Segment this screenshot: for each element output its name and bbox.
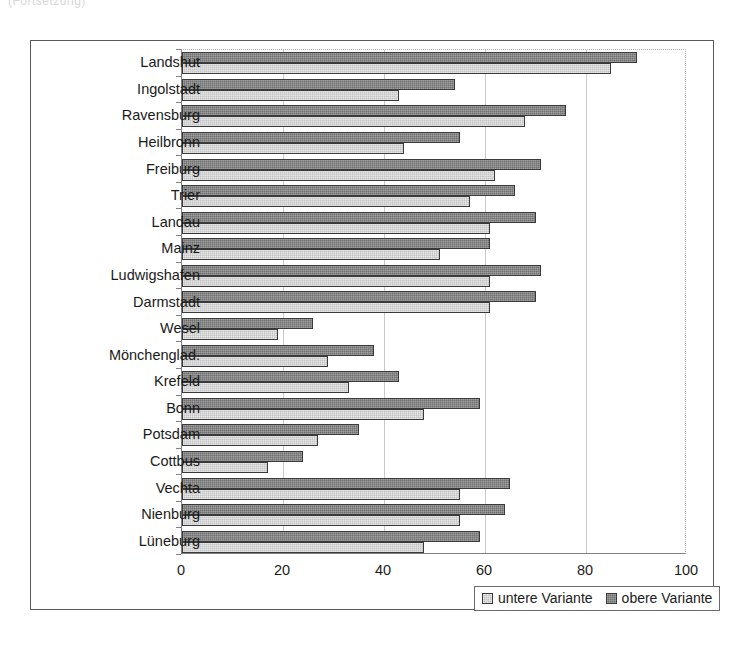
legend-entry-untere: untere Variante bbox=[482, 590, 593, 606]
bar-row bbox=[182, 263, 685, 290]
x-tick-label-40: 40 bbox=[375, 562, 391, 578]
bar-row bbox=[182, 422, 685, 449]
legend-swatch-obere-icon bbox=[606, 593, 617, 604]
legend-entry-obere: obere Variante bbox=[606, 590, 713, 606]
bar-untere-darmstadt bbox=[182, 302, 490, 313]
tick-mark bbox=[176, 368, 181, 369]
bar-row bbox=[182, 130, 685, 157]
bar-untere-krefeld bbox=[182, 382, 349, 393]
category-label-m-nchenglad: Mönchenglad. bbox=[109, 348, 200, 363]
bar-untere-mainz bbox=[182, 249, 440, 260]
chart-frame: LandshutIngolstadtRavensburgHeilbronnFre… bbox=[30, 40, 714, 610]
bar-obere-mainz bbox=[182, 238, 490, 249]
category-label-ingolstadt: Ingolstadt bbox=[137, 82, 200, 97]
category-label-vechta: Vechta bbox=[156, 481, 200, 496]
bar-obere-l-neburg bbox=[182, 531, 480, 542]
bar-untere-nienburg bbox=[182, 515, 460, 526]
bar-untere-ingolstadt bbox=[182, 90, 399, 101]
bar-untere-landau bbox=[182, 223, 490, 234]
tick-mark bbox=[176, 102, 181, 103]
bar-obere-ravensburg bbox=[182, 105, 566, 116]
category-label-ravensburg: Ravensburg bbox=[122, 108, 200, 123]
category-label-mainz: Mainz bbox=[161, 241, 200, 256]
bar-row bbox=[182, 528, 685, 555]
bar-obere-wesel bbox=[182, 318, 313, 329]
category-label-landau: Landau bbox=[152, 215, 200, 230]
bar-obere-krefeld bbox=[182, 371, 399, 382]
bar-row bbox=[182, 156, 685, 183]
category-label-wesel: Wesel bbox=[160, 321, 200, 336]
bar-obere-cottbus bbox=[182, 451, 303, 462]
bar-untere-trier bbox=[182, 196, 470, 207]
bar-row bbox=[182, 369, 685, 396]
bar-obere-vechta bbox=[182, 478, 510, 489]
tick-mark bbox=[176, 155, 181, 156]
category-label-potsdam: Potsdam bbox=[143, 427, 200, 442]
category-label-nienburg: Nienburg bbox=[141, 507, 200, 522]
bar-row bbox=[182, 449, 685, 476]
bar-untere-vechta bbox=[182, 489, 460, 500]
legend-swatch-untere-icon bbox=[482, 593, 493, 604]
category-label-cottbus: Cottbus bbox=[150, 454, 200, 469]
bar-obere-ingolstadt bbox=[182, 79, 455, 90]
bar-row bbox=[182, 209, 685, 236]
tick-mark bbox=[176, 76, 181, 77]
tick-mark bbox=[176, 235, 181, 236]
bar-row bbox=[182, 396, 685, 423]
bar-row bbox=[182, 502, 685, 529]
plot-area bbox=[181, 49, 686, 554]
x-tick-label-0: 0 bbox=[177, 562, 185, 578]
bar-untere-heilbronn bbox=[182, 143, 404, 154]
bar-obere-ludwigshafen bbox=[182, 265, 541, 276]
tick-mark bbox=[176, 448, 181, 449]
tick-mark bbox=[176, 395, 181, 396]
legend-label-obere: obere Variante bbox=[622, 590, 713, 606]
tick-mark bbox=[176, 501, 181, 502]
x-tick-label-80: 80 bbox=[577, 562, 593, 578]
tick-mark bbox=[176, 262, 181, 263]
bar-row bbox=[182, 236, 685, 263]
x-tick-label-100: 100 bbox=[674, 562, 698, 578]
bar-row bbox=[182, 289, 685, 316]
category-label-ludwigshafen: Ludwigshafen bbox=[111, 268, 201, 283]
bar-untere-m-nchenglad bbox=[182, 356, 328, 367]
chart-legend: untere Varianteobere Variante bbox=[474, 586, 721, 611]
bar-row bbox=[182, 183, 685, 210]
category-label-trier: Trier bbox=[171, 188, 200, 203]
bar-row bbox=[182, 50, 685, 77]
tick-mark bbox=[176, 527, 181, 528]
bar-obere-landau bbox=[182, 212, 536, 223]
bar-obere-bonn bbox=[182, 398, 480, 409]
bar-row bbox=[182, 77, 685, 104]
bar-untere-bonn bbox=[182, 409, 424, 420]
bar-obere-freiburg bbox=[182, 159, 541, 170]
bar-obere-potsdam bbox=[182, 424, 359, 435]
category-label-freiburg: Freiburg bbox=[146, 162, 200, 177]
tick-mark bbox=[176, 554, 181, 555]
category-label-heilbronn: Heilbronn bbox=[138, 135, 200, 150]
x-tick-label-60: 60 bbox=[476, 562, 492, 578]
bar-obere-nienburg bbox=[182, 504, 505, 515]
tick-mark bbox=[176, 208, 181, 209]
bar-untere-l-neburg bbox=[182, 542, 424, 553]
tick-mark bbox=[176, 315, 181, 316]
category-label-bonn: Bonn bbox=[166, 401, 200, 416]
top-caption: (Fortsetzung) bbox=[8, 0, 86, 8]
bar-row bbox=[182, 316, 685, 343]
bar-untere-ludwigshafen bbox=[182, 276, 490, 287]
x-tick-label-20: 20 bbox=[274, 562, 290, 578]
category-label-darmstadt: Darmstadt bbox=[133, 295, 200, 310]
bar-obere-m-nchenglad bbox=[182, 345, 374, 356]
bar-obere-heilbronn bbox=[182, 132, 460, 143]
bar-untere-landshut bbox=[182, 63, 611, 74]
bar-obere-darmstadt bbox=[182, 291, 536, 302]
bar-obere-trier bbox=[182, 185, 515, 196]
category-label-krefeld: Krefeld bbox=[154, 374, 200, 389]
tick-mark bbox=[176, 341, 181, 342]
legend-label-untere: untere Variante bbox=[498, 590, 593, 606]
tick-mark bbox=[176, 288, 181, 289]
bar-rows bbox=[182, 50, 685, 553]
tick-mark bbox=[176, 421, 181, 422]
bar-untere-potsdam bbox=[182, 435, 318, 446]
tick-mark bbox=[176, 474, 181, 475]
